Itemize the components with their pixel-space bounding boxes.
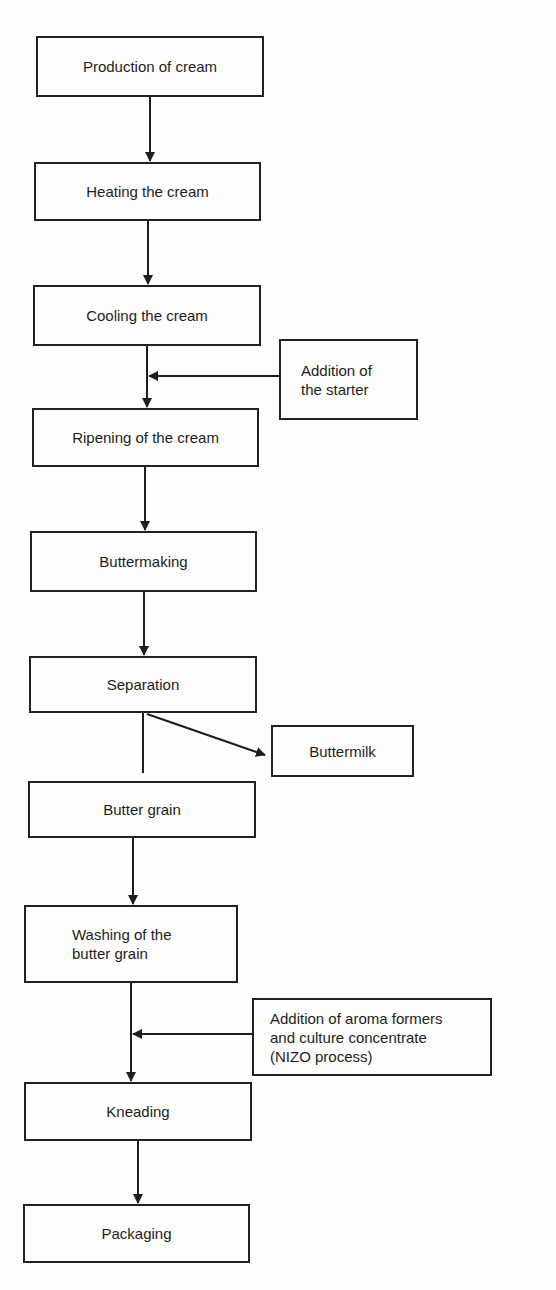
step-label: Washing of the butter grain xyxy=(72,925,172,963)
step-cooling-the-cream: Cooling the cream xyxy=(33,285,261,346)
input-nizo-aroma-culture: Addition of aroma formers and culture co… xyxy=(252,998,492,1076)
step-heating-the-cream: Heating the cream xyxy=(34,162,261,221)
step-kneading: Kneading xyxy=(24,1082,252,1141)
step-label: Butter grain xyxy=(103,800,181,819)
step-washing-of-butter-grain: Washing of the butter grain xyxy=(24,905,238,983)
step-separation: Separation xyxy=(29,656,257,713)
output-buttermilk: Buttermilk xyxy=(271,725,414,777)
step-butter-grain: Butter grain xyxy=(28,781,256,838)
step-ripening-of-the-cream: Ripening of the cream xyxy=(32,408,259,467)
step-buttermaking: Buttermaking xyxy=(30,531,257,592)
step-label: Buttermaking xyxy=(99,552,187,571)
arrow-separation-buttermilk xyxy=(147,714,265,755)
step-label: Production of cream xyxy=(83,57,217,76)
step-label: Heating the cream xyxy=(86,182,209,201)
output-label: Buttermilk xyxy=(309,742,376,761)
input-label: Addition of aroma formers and culture co… xyxy=(270,1009,443,1066)
step-label: Packaging xyxy=(101,1224,171,1243)
step-label: Ripening of the cream xyxy=(72,428,219,447)
step-production-of-cream: Production of cream xyxy=(36,36,264,97)
step-packaging: Packaging xyxy=(23,1204,250,1263)
input-addition-of-starter: Addition of the starter xyxy=(279,339,418,420)
input-label: Addition of the starter xyxy=(301,361,372,399)
step-label: Separation xyxy=(107,675,180,694)
step-label: Cooling the cream xyxy=(86,306,208,325)
step-label: Kneading xyxy=(106,1102,169,1121)
